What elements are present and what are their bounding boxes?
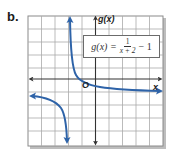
formula-tail: − 1 [139, 41, 152, 52]
formula-fraction: 1 x + 2 [120, 38, 136, 55]
graph [0, 0, 174, 151]
y-axis-label: g(x) [98, 14, 115, 24]
formula-lhs: g(x) = [91, 41, 116, 52]
x-axis-label: x [153, 82, 158, 92]
origin-label: O [82, 80, 89, 90]
formula-box: g(x) = 1 x + 2 − 1 [83, 35, 160, 58]
formula-denominator: x + 2 [120, 47, 136, 55]
